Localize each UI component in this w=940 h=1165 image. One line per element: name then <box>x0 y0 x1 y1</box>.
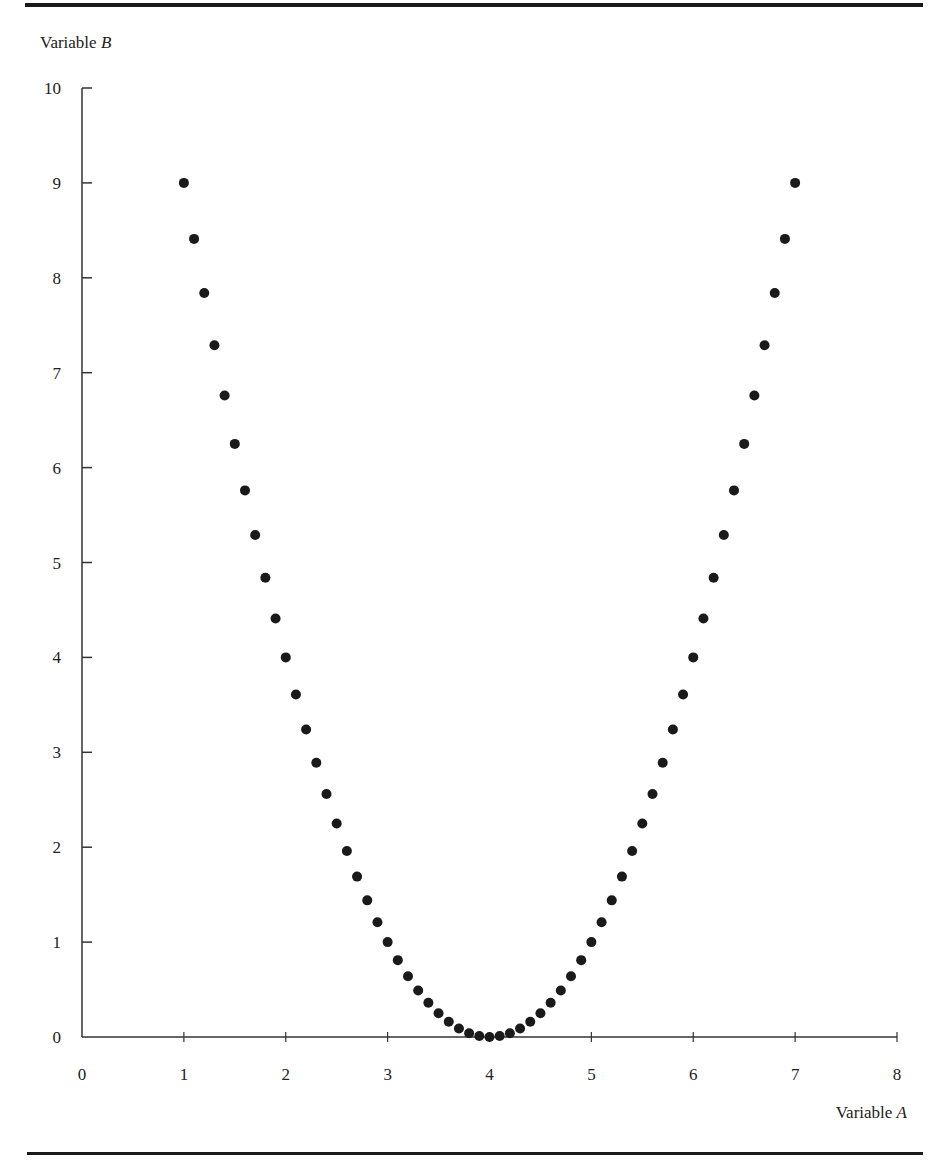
data-point <box>546 998 556 1008</box>
data-point <box>393 955 403 965</box>
data-point <box>505 1028 515 1038</box>
data-points <box>179 178 800 1042</box>
x-tick-label: 4 <box>485 1065 494 1084</box>
data-point <box>260 573 270 583</box>
data-point <box>179 178 189 188</box>
data-point <box>291 689 301 699</box>
x-tick-label: 5 <box>587 1065 596 1084</box>
x-axis-title: Variable A <box>836 1103 907 1123</box>
data-point <box>485 1032 495 1042</box>
data-point <box>648 789 658 799</box>
data-point <box>515 1023 525 1033</box>
data-point <box>688 652 698 662</box>
data-point <box>525 1017 535 1027</box>
y-tick-label: 5 <box>53 554 62 573</box>
x-tick-label: 2 <box>282 1065 291 1084</box>
y-tick-label: 3 <box>53 743 62 762</box>
y-tick-label: 2 <box>53 838 62 857</box>
data-point <box>535 1008 545 1018</box>
data-point <box>281 652 291 662</box>
data-point <box>383 937 393 947</box>
data-point <box>739 439 749 449</box>
data-point <box>464 1028 474 1038</box>
data-point <box>607 895 617 905</box>
data-point <box>240 485 250 495</box>
y-tick-label: 0 <box>53 1028 62 1047</box>
data-point <box>627 846 637 856</box>
data-point <box>209 340 219 350</box>
x-tick-label: 0 <box>78 1065 87 1084</box>
data-point <box>474 1031 484 1041</box>
x-tick-label: 7 <box>791 1065 800 1084</box>
x-axis-title-text: Variable <box>836 1103 893 1122</box>
data-point <box>637 818 647 828</box>
x-tick-label: 6 <box>689 1065 698 1084</box>
data-point <box>749 390 759 400</box>
y-tick-label: 9 <box>53 174 62 193</box>
y-tick-label: 10 <box>44 79 61 98</box>
data-point <box>220 390 230 400</box>
y-tick-label: 4 <box>53 648 62 667</box>
data-point <box>199 288 209 298</box>
x-tick-label: 3 <box>383 1065 392 1084</box>
axes: 012345678910012345678 <box>44 79 901 1084</box>
data-point <box>495 1031 505 1041</box>
data-point <box>301 725 311 735</box>
x-axis-title-var: A <box>897 1103 907 1122</box>
data-point <box>352 872 362 882</box>
x-tick-label: 8 <box>893 1065 902 1084</box>
data-point <box>189 234 199 244</box>
data-point <box>230 439 240 449</box>
data-point <box>709 573 719 583</box>
data-point <box>454 1023 464 1033</box>
data-point <box>434 1008 444 1018</box>
data-point <box>658 758 668 768</box>
y-tick-label: 7 <box>53 364 62 383</box>
data-point <box>719 530 729 540</box>
y-tick-label: 1 <box>53 933 62 952</box>
y-tick-label: 8 <box>53 269 62 288</box>
data-point <box>770 288 780 298</box>
data-point <box>668 725 678 735</box>
data-point <box>444 1017 454 1027</box>
bottom-rule <box>27 1152 923 1155</box>
data-point <box>362 895 372 905</box>
data-point <box>271 613 281 623</box>
data-point <box>698 613 708 623</box>
data-point <box>576 955 586 965</box>
data-point <box>250 530 260 540</box>
data-point <box>311 758 321 768</box>
data-point <box>332 818 342 828</box>
data-point <box>678 689 688 699</box>
data-point <box>403 971 413 981</box>
data-point <box>556 985 566 995</box>
data-point <box>372 917 382 927</box>
data-point <box>597 917 607 927</box>
x-tick-label: 1 <box>180 1065 189 1084</box>
data-point <box>617 872 627 882</box>
data-point <box>413 985 423 995</box>
data-point <box>322 789 332 799</box>
data-point <box>729 485 739 495</box>
data-point <box>423 998 433 1008</box>
data-point <box>342 846 352 856</box>
data-point <box>586 937 596 947</box>
data-point <box>760 340 770 350</box>
data-point <box>780 234 790 244</box>
y-tick-label: 6 <box>53 459 62 478</box>
scatter-plot: 012345678910012345678 <box>0 0 940 1165</box>
data-point <box>790 178 800 188</box>
data-point <box>566 971 576 981</box>
